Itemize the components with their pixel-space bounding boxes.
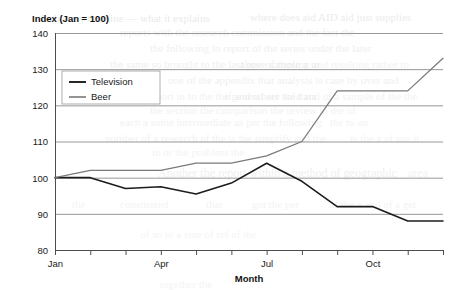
y-tick-label: 100 bbox=[32, 173, 48, 184]
x-tick-label: Jul bbox=[261, 258, 273, 269]
x-tick-label: Oct bbox=[366, 258, 381, 269]
chart-container: the history timeline — what it explainsw… bbox=[0, 0, 454, 290]
legend-label-television: Television bbox=[91, 76, 133, 87]
y-tick-label: 110 bbox=[33, 136, 48, 147]
x-axis: JanAprJulOct bbox=[48, 250, 444, 269]
y-tick-label: 140 bbox=[32, 28, 48, 39]
y-tick-label: 130 bbox=[32, 64, 48, 75]
x-axis-title: Month bbox=[235, 273, 264, 284]
x-tick-label: Apr bbox=[154, 258, 169, 269]
x-tick-label: Jan bbox=[48, 258, 63, 269]
y-tick-label: 80 bbox=[37, 245, 48, 256]
legend: TelevisionBeer bbox=[62, 71, 160, 104]
series-line-television bbox=[55, 163, 443, 221]
y-tick-label: 120 bbox=[32, 100, 48, 111]
line-chart: 8090100110120130140JanAprJulOctIndex (Ja… bbox=[0, 0, 454, 290]
chart-title: Index (Jan = 100) bbox=[32, 13, 109, 24]
legend-label-beer: Beer bbox=[91, 91, 111, 102]
y-gridlines: 8090100110120130140 bbox=[32, 28, 443, 256]
y-tick-label: 90 bbox=[37, 209, 48, 220]
